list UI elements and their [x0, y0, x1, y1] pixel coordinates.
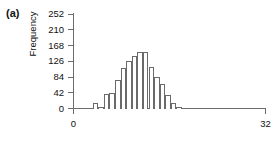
y-axis-tick-label: 42 [24, 88, 64, 98]
plot-area: 25221016812684420 032 [0, 0, 273, 144]
y-axis-tick [68, 92, 73, 93]
y-axis-tick-label: 168 [24, 41, 64, 51]
y-axis-line [73, 13, 74, 109]
y-axis-tick [68, 45, 73, 46]
figure-panel-a: (a) Frequency 25221016812684420 032 [0, 0, 273, 144]
x-axis-tick-label: 0 [59, 119, 89, 129]
y-axis-tick-label: 0 [24, 104, 64, 114]
y-axis-tick-label: 210 [24, 25, 64, 35]
y-axis-tick [68, 14, 73, 15]
y-axis-tick [68, 61, 73, 62]
y-axis-tick [68, 77, 73, 78]
x-axis-tick [265, 109, 266, 114]
y-axis-tick-label: 252 [24, 9, 64, 19]
y-axis-tick-label: 126 [24, 56, 64, 66]
x-axis-tick-label: 32 [251, 119, 274, 129]
histogram-bar [176, 107, 182, 109]
y-axis-tick-label: 84 [24, 72, 64, 82]
y-axis-tick [68, 29, 73, 30]
x-axis-tick [73, 109, 74, 114]
